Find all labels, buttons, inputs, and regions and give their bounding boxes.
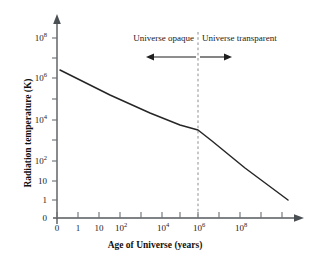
x-tick-label-10: 10 [95, 224, 104, 233]
x-tick-marks [57, 212, 282, 218]
y-axis-title: Radiation temperature (K) [23, 53, 33, 213]
x-tick-label-1e4: 104 [157, 224, 169, 233]
region-label-universe-transparent: Universe transparent [198, 34, 277, 43]
radiation-temperature-chart: 108 106 104 102 10 1 0 0 1 10 102 104 10… [0, 0, 310, 264]
x-tick-label-1e6: 106 [193, 224, 205, 233]
region-label-universe-opaque: Universe opaque [133, 34, 198, 43]
x-tick-label-1e8: 108 [235, 224, 247, 233]
transparent-region-arrow [200, 54, 232, 61]
x-axis-title: Age of Universe (years) [0, 240, 310, 250]
y-tick-label-0: 0 [14, 214, 47, 223]
x-axis-arrowhead [294, 214, 304, 222]
y-tick-label-1e8: 108 [14, 34, 47, 43]
radiation-temperature-curve [60, 70, 288, 200]
y-tick-marks [52, 38, 57, 200]
y-axis-arrowhead [53, 14, 61, 24]
x-tick-label-1: 1 [76, 224, 81, 233]
x-tick-label-0: 0 [55, 224, 60, 233]
opaque-region-arrow [146, 54, 196, 61]
x-tick-label-1e2: 102 [115, 224, 127, 233]
